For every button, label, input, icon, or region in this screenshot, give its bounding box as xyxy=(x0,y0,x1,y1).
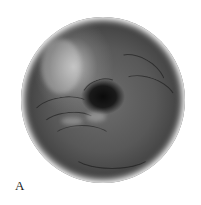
panel-label: A xyxy=(15,178,24,194)
mucosal-fold xyxy=(71,137,153,169)
figure: A xyxy=(0,0,201,205)
fold-highlight xyxy=(86,112,106,122)
fold-highlight xyxy=(61,117,83,125)
light-reflection xyxy=(41,39,81,94)
endoscopic-view-image xyxy=(21,17,185,183)
